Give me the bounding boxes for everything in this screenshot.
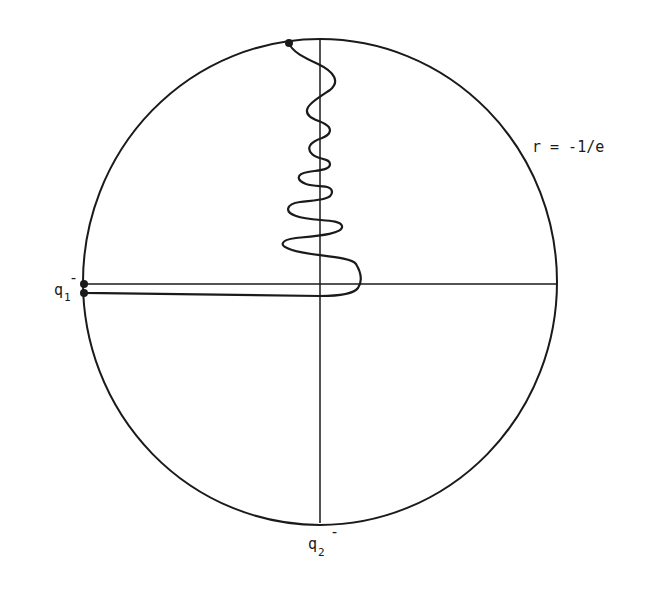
svg-text:2: 2 <box>318 546 325 559</box>
svg-text:-: - <box>69 269 78 287</box>
q1-point-lower <box>80 289 88 297</box>
svg-text:q: q <box>308 535 317 553</box>
q2-label: q 2 - <box>308 523 339 559</box>
boundary-label: r = -1/e <box>532 138 604 156</box>
q1-label: q 1 - <box>54 269 78 304</box>
svg-text:1: 1 <box>64 291 71 304</box>
svg-text:q: q <box>54 281 63 299</box>
svg-text:-: - <box>330 523 339 541</box>
phase-diagram: r = -1/e q 1 - q 2 - <box>0 0 657 593</box>
start-point-marker <box>285 39 293 47</box>
q1-point-upper <box>80 280 88 288</box>
